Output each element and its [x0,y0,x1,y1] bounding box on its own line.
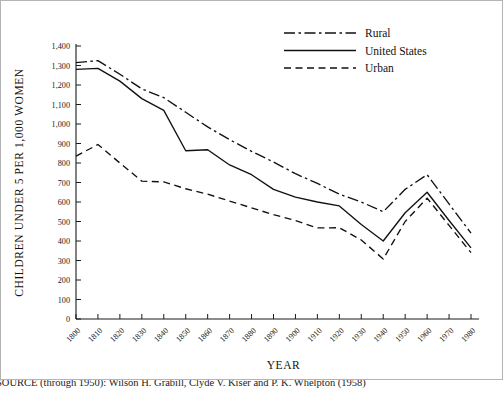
x-tick-label: 1850 [174,326,192,344]
line-chart: 01002003004005006007008009001,0001,1001,… [1,1,502,379]
y-tick-label: 1,200 [52,81,70,90]
x-tick-label: 1880 [240,326,258,344]
series-group [76,61,471,259]
source-strip: SOURCE (through 1950): Wilson H. Grabill… [0,380,503,406]
x-tick-label: 1890 [262,326,280,344]
x-tick-label: 1910 [306,326,324,344]
x-axis-title: YEAR [267,359,301,371]
y-tick-label: 400 [58,237,70,246]
x-tick-label: 1800 [64,326,82,344]
x-tick-label: 1920 [328,326,346,344]
x-tick-label: 1810 [86,326,104,344]
y-tick-label: 100 [58,296,70,305]
source-note: SOURCE (through 1950): Wilson H. Grabill… [0,380,366,388]
x-tick-label: 1860 [196,326,214,344]
y-axis-title: CHILDREN UNDER 5 PER 1,000 WOMEN [13,68,26,297]
y-tick-label: 500 [58,218,70,227]
series-line-united-states [76,68,471,247]
legend-label-united-states: United States [365,45,427,57]
x-tick-label: 1970 [438,326,456,344]
y-axis-ticks: 01002003004005006007008009001,0001,1001,… [52,42,81,324]
x-tick-label: 1870 [218,326,236,344]
x-tick-label: 1980 [459,326,477,344]
x-tick-label: 1840 [152,326,170,344]
y-tick-label: 900 [58,140,70,149]
legend-label-rural: Rural [365,27,391,39]
y-tick-label: 600 [58,198,70,207]
y-tick-label: 300 [58,257,70,266]
y-tick-label: 1,100 [52,101,70,110]
figure-panel: 01002003004005006007008009001,0001,1001,… [0,0,503,380]
x-tick-label: 1900 [284,326,302,344]
y-tick-label: 1,000 [52,120,70,129]
x-tick-label: 1820 [108,326,126,344]
x-tick-label: 1930 [350,326,368,344]
y-tick-label: 1,400 [52,42,70,51]
x-tick-label: 1960 [416,326,434,344]
legend-label-urban: Urban [365,62,394,74]
y-tick-label: 200 [58,276,70,285]
chart-legend: RuralUnited StatesUrban [284,27,427,74]
x-tick-label: 1830 [130,326,148,344]
y-tick-label: 0 [66,315,70,324]
y-tick-label: 1,300 [52,62,70,71]
y-tick-label: 800 [58,159,70,168]
series-line-urban [76,144,471,258]
x-tick-label: 1950 [394,326,412,344]
y-tick-label: 700 [58,179,70,188]
x-tick-label: 1940 [372,326,390,344]
